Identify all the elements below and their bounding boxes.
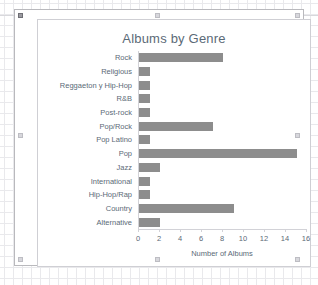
resize-handle-bottom-center[interactable]: [155, 257, 160, 262]
x-axis-tick-label: 4: [178, 234, 182, 243]
bar[interactable]: [139, 94, 150, 103]
x-axis-tick: [201, 229, 202, 232]
resize-handle-middle-right[interactable]: [295, 133, 300, 138]
y-axis-label: Jazz: [31, 161, 138, 175]
x-axis-line: 0246810121416: [138, 229, 306, 230]
y-axis-label: R&B: [31, 92, 138, 106]
x-axis-tick-label: 2: [157, 234, 161, 243]
bar[interactable]: [139, 67, 150, 76]
embedded-chart-object[interactable]: Albums by Genre RockReligiousReggaeton y…: [14, 9, 304, 266]
resize-handle-middle-left[interactable]: [18, 133, 23, 138]
bar[interactable]: [139, 108, 150, 117]
chart-plot-area: RockReligiousReggaeton y Hip-HopR&BPost-…: [31, 51, 317, 229]
x-axis-tick-label: 10: [239, 234, 247, 243]
y-axis-label: Alternative: [31, 215, 138, 229]
y-axis-label: Reggaeton y Hip-Hop: [31, 78, 138, 92]
x-axis-tick: [138, 229, 139, 232]
bar-row[interactable]: [139, 133, 306, 147]
y-axis-label: Pop/Rock: [31, 119, 138, 133]
bar-row[interactable]: [139, 106, 306, 120]
bar[interactable]: [139, 122, 213, 131]
bar-row[interactable]: [139, 119, 306, 133]
bar[interactable]: [139, 81, 150, 90]
x-axis-tick-label: 16: [302, 234, 310, 243]
bar[interactable]: [139, 218, 160, 227]
bar-row[interactable]: [139, 147, 306, 161]
bar[interactable]: [139, 190, 150, 199]
x-axis-tick: [159, 229, 160, 232]
y-axis-label: Post-rock: [31, 106, 138, 120]
bar-row[interactable]: [139, 65, 306, 79]
x-axis-tick-label: 6: [199, 234, 203, 243]
x-axis-tick: [306, 229, 307, 232]
bar[interactable]: [139, 204, 234, 213]
resize-handle-top-right[interactable]: [295, 13, 300, 18]
y-axis-category-labels: RockReligiousReggaeton y Hip-HopR&BPost-…: [31, 51, 138, 229]
bar[interactable]: [139, 163, 160, 172]
resize-handle-top-left[interactable]: [18, 13, 23, 18]
bar[interactable]: [139, 53, 223, 62]
y-axis-label: Pop: [31, 147, 138, 161]
y-axis-label: Rock: [31, 51, 138, 65]
x-axis-tick-label: 0: [136, 234, 140, 243]
y-axis-label: Religious: [31, 65, 138, 79]
x-axis-tick-label: 8: [220, 234, 224, 243]
bar-row[interactable]: [139, 188, 306, 202]
bar-row[interactable]: [139, 92, 306, 106]
bar[interactable]: [139, 177, 150, 186]
bar-row[interactable]: [139, 78, 306, 92]
bar-row[interactable]: [139, 202, 306, 216]
bar-row[interactable]: [139, 51, 306, 65]
y-axis-label: Hip-Hop/Rap: [31, 188, 138, 202]
y-axis-label: International: [31, 174, 138, 188]
bar-row[interactable]: [139, 215, 306, 229]
chart-canvas[interactable]: Albums by Genre RockReligiousReggaeton y…: [31, 21, 317, 273]
resize-handle-bottom-left[interactable]: [18, 257, 23, 262]
x-axis-tick: [285, 229, 286, 232]
x-axis-tick-label: 14: [281, 234, 289, 243]
y-axis-label: Pop Latino: [31, 133, 138, 147]
x-axis-tick: [180, 229, 181, 232]
x-axis-tick: [243, 229, 244, 232]
bars-container: [138, 51, 306, 229]
resize-handle-bottom-right[interactable]: [295, 257, 300, 262]
chart-title: Albums by Genre: [31, 31, 317, 46]
bar-row[interactable]: [139, 174, 306, 188]
bar-row[interactable]: [139, 161, 306, 175]
x-axis-title: Number of Albums: [138, 249, 306, 258]
x-axis-tick: [222, 229, 223, 232]
resize-handle-top-center[interactable]: [155, 13, 160, 18]
x-axis-tick-label: 12: [260, 234, 268, 243]
bar[interactable]: [139, 149, 297, 158]
bar[interactable]: [139, 135, 150, 144]
y-axis-label: Country: [31, 202, 138, 216]
x-axis-tick: [264, 229, 265, 232]
